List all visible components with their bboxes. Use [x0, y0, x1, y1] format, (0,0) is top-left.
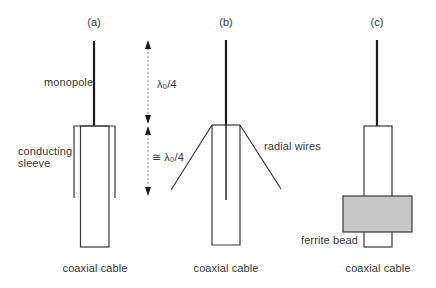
arrow-up-icon — [145, 126, 151, 135]
dimension-arrows — [145, 40, 151, 196]
panel-c-label: (c) — [370, 16, 383, 28]
sleeve-label-line1: conducting — [18, 145, 72, 157]
coaxial-cable-label-b: coaxial cable — [194, 262, 259, 274]
coaxial-cable-label-c: coaxial cable — [346, 262, 411, 274]
ferrite-bead — [343, 196, 412, 232]
panel-b-label: (b) — [219, 16, 233, 28]
dim-upper-label: λ₀/4 — [157, 78, 177, 90]
monopole-label: monopole — [44, 76, 93, 88]
sleeve-label-line2: sleeve — [18, 157, 50, 169]
coaxial-cable-a — [81, 126, 110, 247]
coaxial-cable-label-a: coaxial cable — [63, 262, 128, 274]
arrow-down-icon — [145, 115, 151, 124]
ferrite-bead-label: ferrite bead — [301, 234, 358, 246]
radial-wires-label: radial wires — [264, 140, 321, 152]
arrow-down-icon — [145, 187, 151, 196]
panel-a — [74, 41, 115, 247]
antenna-diagram — [0, 0, 436, 288]
arrow-up-icon — [145, 40, 151, 49]
dim-lower-label: ≅ λ₀/4 — [152, 151, 184, 163]
panel-a-label: (a) — [87, 16, 101, 28]
panel-c — [343, 40, 412, 247]
radial-wire-right — [240, 125, 281, 189]
